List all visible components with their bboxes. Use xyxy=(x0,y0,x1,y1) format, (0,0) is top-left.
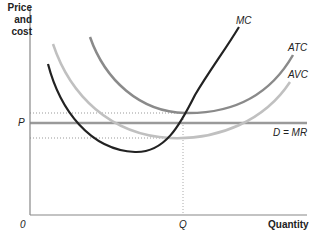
mc-label: MC xyxy=(236,15,252,26)
demand-mr-label: D = MR xyxy=(273,127,307,138)
y-axis-label-line: cost xyxy=(2,26,32,38)
q-tick-label: Q xyxy=(179,219,187,230)
avc-label: AVC xyxy=(288,69,308,80)
cost-curves-chart xyxy=(0,0,317,236)
y-axis-label: Price and cost xyxy=(2,2,32,38)
y-axis-label-line: Price xyxy=(2,2,32,14)
p-tick-label: P xyxy=(18,117,25,128)
origin-label: 0 xyxy=(20,219,26,230)
y-axis-label-line: and xyxy=(2,14,32,26)
x-axis-label: Quantity xyxy=(268,219,309,230)
atc-label: ATC xyxy=(288,42,307,53)
